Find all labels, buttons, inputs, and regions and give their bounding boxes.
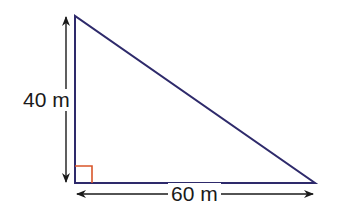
height-label: 40 m (21, 89, 72, 111)
base-label: 60 m (168, 183, 221, 205)
right-angle-marker (75, 166, 92, 183)
right-triangle (75, 16, 315, 183)
